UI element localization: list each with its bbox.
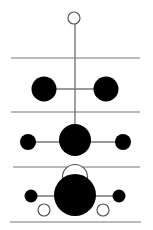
row2-right-circle [94, 77, 119, 102]
row2-left-circle [32, 77, 57, 102]
row4-center-circle [54, 174, 96, 216]
row4-open-right-circle [97, 204, 109, 216]
diagram-canvas [0, 0, 153, 230]
row4-open-left-circle [38, 204, 50, 216]
top-open-circle [68, 12, 80, 24]
row3-right-circle [115, 134, 131, 150]
row4-right-circle [113, 190, 126, 203]
row3-left-circle [20, 134, 36, 150]
row4-left-circle [25, 190, 38, 203]
row3-center-circle [59, 124, 91, 156]
